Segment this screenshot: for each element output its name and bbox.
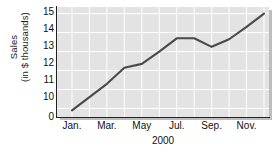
x-tick-label: Jan.: [63, 120, 82, 131]
y-axis-title: Sales (in $ thousands): [8, 1, 30, 93]
plot-area: [57, 7, 269, 117]
x-tick-label: Sep.: [201, 120, 222, 131]
x-tick-label: Jul.: [169, 120, 185, 131]
x-tick-label: Nov.: [237, 120, 257, 131]
y-tick-label: 12: [34, 58, 54, 68]
y-tick-label: 10: [34, 92, 54, 102]
y-tick-label: 15: [34, 7, 54, 17]
y-axis-tick-labels: 1514131211100: [34, 0, 54, 160]
y-axis-title-line1: Sales: [8, 1, 19, 93]
y-tick-label: 0: [34, 112, 54, 122]
x-axis-tick-labels: Jan.Mar.MayJul.Sep.Nov.: [57, 120, 269, 136]
sales-line-series: [57, 7, 269, 117]
x-axis-line: [56, 117, 270, 118]
y-axis-title-line2: (in $ thousands): [19, 1, 30, 93]
y-tick-label: 14: [34, 24, 54, 34]
sales-line: [72, 14, 264, 111]
line-chart: Sales (in $ thousands) 1514131211100 Jan…: [0, 0, 273, 160]
x-tick-label: May: [132, 120, 151, 131]
x-tick-label: Mar.: [97, 120, 116, 131]
y-tick-label: 11: [34, 75, 54, 85]
y-tick-label: 13: [34, 41, 54, 51]
x-axis-title: 2000: [57, 135, 269, 146]
